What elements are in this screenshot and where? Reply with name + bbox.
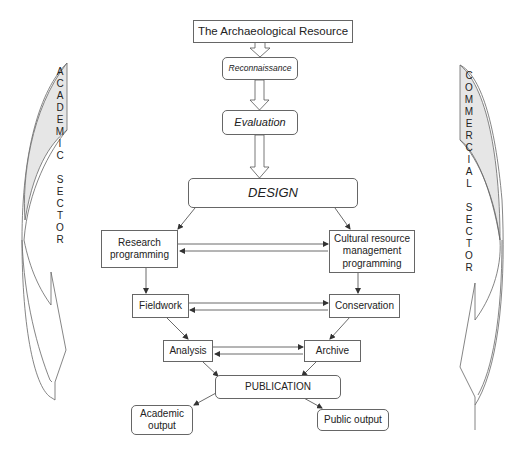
sector-letter: T <box>463 238 475 250</box>
node-label: Archive <box>316 345 349 358</box>
node-label: Evaluation <box>234 116 285 130</box>
sector-letter: C <box>54 78 66 90</box>
commercial-sector-label: COMMERCIAL SECTOR <box>463 70 475 274</box>
arrow-publication-to-academic <box>194 393 216 405</box>
sector-letter: R <box>463 130 475 142</box>
node-label: Cultural resource management programming <box>331 233 413 271</box>
sector-letter: E <box>54 114 66 126</box>
sector-letter <box>54 162 66 174</box>
node-label: PUBLICATION <box>245 381 311 394</box>
node-evaluation: Evaluation <box>222 110 298 135</box>
node-label: Reconnaissance <box>229 63 292 74</box>
sector-letter: C <box>463 226 475 238</box>
sector-letter: M <box>463 94 475 106</box>
node-label: Conservation <box>335 300 394 313</box>
arrow-analysis-to-publication <box>203 362 218 376</box>
node-archaeological-resource: The Archaeological Resource <box>193 20 353 43</box>
sector-letter: A <box>54 66 66 78</box>
node-publication: PUBLICATION <box>215 375 341 399</box>
node-archive: Archive <box>304 340 361 362</box>
sector-letter: T <box>54 210 66 222</box>
arrow-design-to-crm <box>335 208 350 229</box>
node-research-programming: Research programming <box>101 230 178 268</box>
sector-letter: L <box>463 178 475 190</box>
sector-letter: I <box>463 154 475 166</box>
sector-letter: O <box>463 250 475 262</box>
sector-letter: O <box>54 222 66 234</box>
sector-letter: R <box>463 262 475 274</box>
sector-letter: E <box>463 118 475 130</box>
academic-sector-label: ACADEMIC SECTOR <box>54 66 66 246</box>
sector-letter: A <box>54 90 66 102</box>
node-label: Research programming <box>105 237 175 262</box>
node-fieldwork: Fieldwork <box>132 294 189 318</box>
sector-letter: A <box>463 166 475 178</box>
node-conservation: Conservation <box>329 294 400 318</box>
hollow-arrow-evaluation-to-design <box>250 135 269 178</box>
node-academic-output: Academic output <box>131 405 193 435</box>
hollow-arrow-resource-to-reconnaissance <box>250 42 270 57</box>
node-crm-programming: Cultural resource management programming <box>329 230 415 273</box>
sector-letter: M <box>54 126 66 138</box>
node-label: Public output <box>324 414 382 427</box>
node-design: DESIGN <box>188 178 358 208</box>
node-label: Fieldwork <box>139 300 182 313</box>
sector-letter: M <box>463 106 475 118</box>
sector-letter: D <box>54 102 66 114</box>
sector-letter: C <box>54 198 66 210</box>
arrow-conservation-to-archive <box>330 317 350 339</box>
sector-letter: I <box>54 138 66 150</box>
sector-letter: S <box>463 202 475 214</box>
arrow-fieldwork-to-analysis <box>166 317 188 339</box>
node-public-output: Public output <box>317 409 389 431</box>
sector-letter: E <box>463 214 475 226</box>
sector-letter: C <box>463 70 475 82</box>
sector-letter: R <box>54 234 66 246</box>
node-label: The Archaeological Resource <box>198 24 348 38</box>
sector-letter: C <box>463 142 475 154</box>
sector-letter: O <box>463 82 475 94</box>
arrow-archive-to-publication <box>302 362 316 376</box>
sector-letter: E <box>54 186 66 198</box>
sector-letter: C <box>54 150 66 162</box>
node-label: DESIGN <box>248 185 298 201</box>
node-label: Academic output <box>137 408 187 433</box>
arrow-design-to-research <box>178 208 195 229</box>
sector-letter: S <box>54 174 66 186</box>
node-label: Analysis <box>169 345 206 358</box>
node-reconnaissance: Reconnaissance <box>222 57 298 80</box>
node-analysis: Analysis <box>163 340 213 362</box>
sector-letter <box>463 190 475 202</box>
hollow-arrow-reconnaissance-to-evaluation <box>250 80 269 110</box>
